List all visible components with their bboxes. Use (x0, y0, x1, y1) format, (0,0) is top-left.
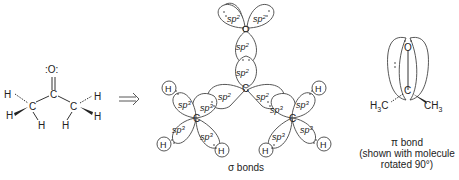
hashed-bond-right (80, 96, 92, 103)
methyl-carbon-right-label: C (70, 101, 77, 112)
acetone-structure: :O: C C C H H H H H H (4, 64, 101, 131)
sigma-bond-diagram: sp2 sp2 O sp2 sp2 C sp2 sp2 sp3 sp3 H sp… (157, 3, 331, 173)
carbon-label: C (242, 83, 249, 94)
pi-lobe-right (410, 37, 428, 100)
methyl-right-label: CH3 (424, 100, 442, 113)
ch-bond-left-down (33, 112, 38, 120)
ch-bond-right-down (67, 112, 72, 120)
methyl-left-label: H3C (370, 100, 388, 113)
wedge-bond-left (14, 107, 28, 116)
hydrogen-label: H (320, 140, 327, 150)
oxygen-label: O (404, 42, 412, 53)
cc-bond-right (58, 96, 70, 102)
hydrogen-label: H (6, 110, 13, 121)
hydrogen-label: H (62, 120, 69, 131)
hydrogen-label: H (38, 120, 45, 131)
cc-bond-left (36, 96, 49, 102)
pi-caption-line-1: π bond (355, 137, 459, 148)
hydrogen-label: H (315, 84, 322, 94)
oxygen-label: O (242, 24, 249, 34)
pi-caption-line-3: rotated 90°) (355, 159, 459, 170)
implies-arrow (119, 93, 139, 105)
hydrogen-label: H (160, 140, 167, 150)
carbon-label: C (404, 85, 411, 96)
carbon-label: C (289, 113, 296, 124)
oxygen-label: :O: (45, 64, 58, 75)
hydrogen-label: H (218, 146, 225, 156)
hydrogen-label: H (94, 111, 101, 122)
pi-bond-caption: π bond (shown with molecule rotated 90°) (355, 137, 459, 170)
hydrogen-label: H (94, 91, 101, 102)
sigma-bonds-caption: σ bonds (228, 162, 264, 173)
hydrogen-label: H (4, 89, 11, 100)
carbonyl-carbon-label: C (50, 89, 57, 100)
hashed-bond-left (15, 94, 28, 103)
hydrogen-label: H (262, 146, 269, 156)
hydrogen-label: H (165, 84, 172, 94)
wedge-bond-right (80, 107, 93, 115)
carbon-label: C (193, 113, 200, 124)
methyl-carbon-left-label: C (29, 101, 36, 112)
pi-bond-diagram: O C H3C CH3 (370, 37, 442, 113)
pi-caption-line-2: (shown with molecule (355, 148, 459, 159)
